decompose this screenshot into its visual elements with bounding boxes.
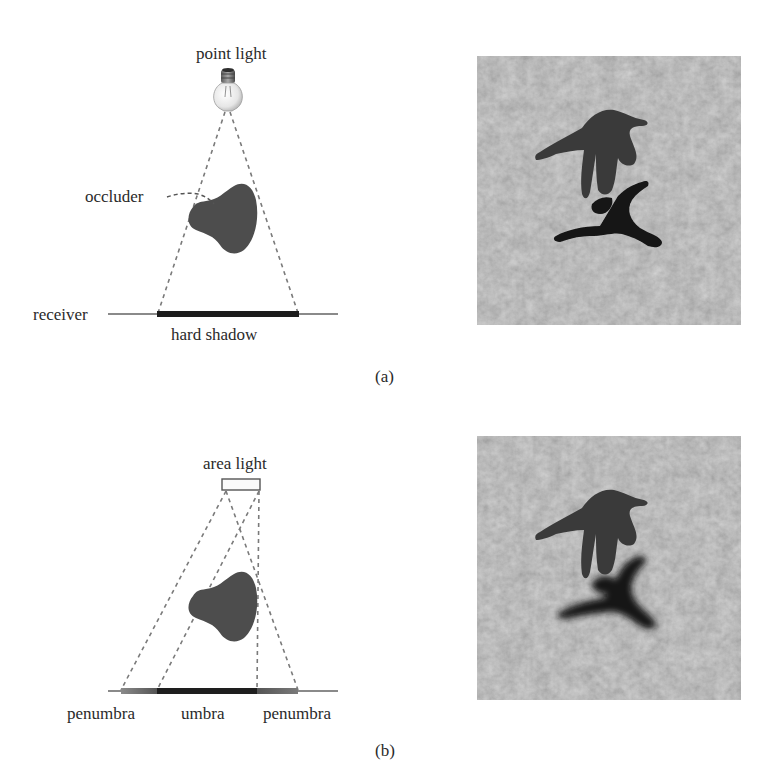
umbra-label: umbra [181,705,224,722]
penumbra-left-label: penumbra [67,705,135,722]
umbra-bar [157,688,257,694]
shadow-diagrams [0,0,772,772]
rendered-photo-hard-shadow [477,56,741,325]
area-light-label: area light [203,455,267,472]
penumbra-left-bar [121,688,157,694]
occluder-shape [188,184,257,254]
area-light-rectangle [222,479,260,490]
receiver-label: receiver [33,306,88,323]
rendered-photo-soft-shadow [477,436,741,700]
penumbra-right-bar [257,688,298,694]
hard-shadow-label: hard shadow [171,326,257,343]
light-bulb-icon [214,68,243,111]
hard-shadow-bar [157,311,299,317]
point-light-label: point light [196,45,266,62]
occluder-shape-b [188,572,257,642]
occluder-label: occluder [85,188,144,205]
panel-b-diagram [108,479,338,694]
caption-b: (b) [375,742,395,759]
caption-a: (a) [375,368,394,385]
penumbra-right-label: penumbra [263,705,331,722]
